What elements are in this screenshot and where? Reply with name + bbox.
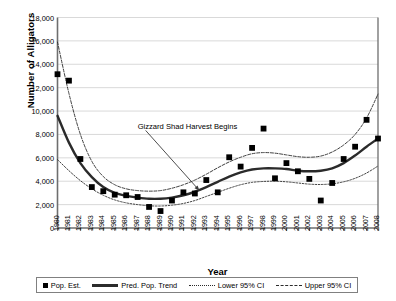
x-axis-tick-label: 2002 [303,215,312,231]
x-axis-tick-label: 2006 [349,215,358,231]
x-axis-tick-label: 2008 [372,215,381,231]
x-axis-tick-label: 1980 [52,215,61,231]
legend-item-upper-ci: Upper 95% CI [276,281,351,290]
x-axis-tick-label: 1994 [212,215,221,231]
x-axis-tick-label: 1982 [74,215,83,231]
square-marker-icon [43,283,48,288]
dashed-line-icon [276,285,302,286]
x-axis-tick-label: 1996 [235,215,244,231]
x-axis-tick-label: 2007 [361,215,370,231]
x-axis-tick-label: 1985 [109,215,118,231]
x-axis-tick-label: 1986 [120,215,129,231]
legend-item-pop-est: Pop. Est. [43,281,81,290]
chart-legend: Pop. Est. Pred. Pop. Trend Lower 95% CI … [36,277,358,293]
x-axis-tick-label: 2004 [326,215,335,231]
x-axis-tick-label: 2003 [315,215,324,231]
x-axis-title: Year [57,266,378,277]
x-axis-tick-label: 1995 [223,215,232,231]
x-axis-tick-label: 1992 [189,215,198,231]
x-axis-tick-label: 1984 [97,215,106,231]
x-axis-tick-label: 1997 [246,215,255,231]
chart-figure: Number of Alligators 02,0004,0006,0008,0… [0,0,396,301]
legend-item-lower-ci: Lower 95% CI [189,281,264,290]
dotted-line-icon [189,285,215,286]
x-axis-tick-label: 1998 [258,215,267,231]
legend-label: Lower 95% CI [218,281,264,290]
legend-item-pred-trend: Pred. Pop. Trend [92,281,177,290]
x-axis-tick-label: 1989 [155,215,164,231]
solid-line-icon [92,284,118,287]
x-axis-tick-label: 1999 [269,215,278,231]
x-axis-tick-label: 1981 [63,215,72,231]
x-axis-tick-label: 1987 [132,215,141,231]
x-axis-tick-label: 1991 [177,215,186,231]
legend-label: Pred. Pop. Trend [121,281,177,290]
x-axis-tick-label: 1990 [166,215,175,231]
x-axis-tick-label: 1988 [143,215,152,231]
x-axis-tick-labels: 1980198119821983198419851986198719881989… [0,0,396,301]
x-axis-tick-label: 2001 [292,215,301,231]
x-axis-tick-label: 1993 [200,215,209,231]
legend-label: Upper 95% CI [305,281,351,290]
x-axis-tick-label: 2005 [338,215,347,231]
x-axis-tick-label: 2000 [280,215,289,231]
legend-label: Pop. Est. [51,281,81,290]
chart-annotation-label: Gizzard Shad Harvest Begins [138,122,238,131]
x-axis-tick-label: 1983 [86,215,95,231]
